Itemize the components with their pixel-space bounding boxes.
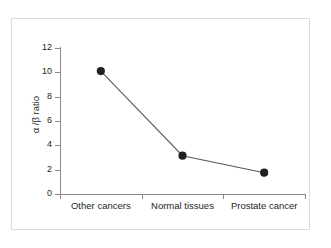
data-point-marker — [178, 152, 186, 160]
data-series-layer — [0, 0, 331, 248]
data-point-marker — [97, 67, 105, 75]
series-markers — [97, 67, 269, 177]
figure-container: α /β ratio 024681012 Other cancersNormal… — [0, 0, 331, 248]
data-point-marker — [260, 169, 268, 177]
